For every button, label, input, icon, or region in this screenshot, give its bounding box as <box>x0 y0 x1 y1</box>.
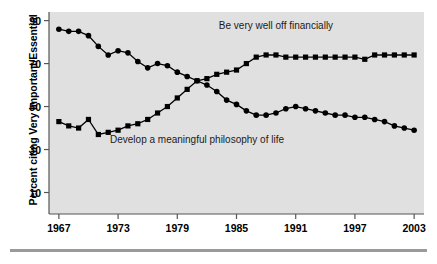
series-marker-circle <box>125 50 131 56</box>
series-marker-circle <box>155 61 161 67</box>
series-marker-square <box>352 55 357 60</box>
series-marker-circle <box>135 59 141 65</box>
series-marker-square <box>175 95 180 100</box>
series-marker-square <box>273 52 278 57</box>
series-marker-square <box>135 121 140 126</box>
y-tick-label: 90 <box>29 15 41 27</box>
series-marker-circle <box>66 29 72 35</box>
y-axis-ticks: 9070503010 <box>29 15 49 199</box>
series-marker-circle <box>313 108 319 114</box>
series-marker-square <box>234 67 239 72</box>
series-marker-square <box>115 128 120 133</box>
series-marker-square <box>293 55 298 60</box>
series-marker-square <box>56 119 61 124</box>
x-axis-ticks: 1967197319791985199119972003 <box>47 214 426 234</box>
series-marker-circle <box>392 123 398 129</box>
series-marker-square <box>185 87 190 92</box>
series-marker-square <box>66 123 71 128</box>
y-tick-label: 30 <box>29 144 41 156</box>
chart-plot-svg: 9070503010 1967197319791985199119972003 … <box>0 0 437 264</box>
x-tick-label: 1979 <box>166 222 190 234</box>
x-tick-label: 1997 <box>343 222 367 234</box>
series-marker-square <box>402 52 407 57</box>
series-marker-circle <box>56 26 62 32</box>
series-marker-circle <box>352 114 358 120</box>
series-marker-square <box>244 61 249 66</box>
series-marker-square <box>86 117 91 122</box>
series-marker-square <box>333 55 338 60</box>
series-marker-square <box>204 76 209 81</box>
series-marker-circle <box>234 102 240 108</box>
series-marker-square <box>145 117 150 122</box>
plot-area-background <box>49 12 424 214</box>
series-marker-circle <box>115 48 121 54</box>
series-marker-square <box>362 57 367 62</box>
series-marker-circle <box>263 112 269 118</box>
series-marker-circle <box>105 52 111 58</box>
x-tick-label: 1973 <box>106 222 130 234</box>
series-marker-circle <box>244 108 250 114</box>
series-marker-circle <box>283 106 289 112</box>
series-marker-square <box>283 55 288 60</box>
label-financially: Be very well off financially <box>219 20 333 31</box>
series-marker-circle <box>214 89 220 95</box>
x-tick-label: 1967 <box>47 222 71 234</box>
series-marker-square <box>313 55 318 60</box>
series-marker-circle <box>86 33 92 39</box>
series-marker-circle <box>303 106 309 112</box>
series-marker-circle <box>362 114 368 120</box>
series-marker-circle <box>253 112 259 118</box>
series-marker-square <box>382 52 387 57</box>
series-marker-circle <box>194 78 200 84</box>
label-philosophy: Develop a meaningful philosophy of life <box>110 134 284 145</box>
series-marker-square <box>165 104 170 109</box>
plot-background <box>49 12 424 214</box>
x-tick-label: 1991 <box>284 222 308 234</box>
series-marker-circle <box>76 29 82 35</box>
series-marker-circle <box>411 127 417 133</box>
series-marker-circle <box>332 112 338 118</box>
y-tick-label: 70 <box>29 58 41 70</box>
series-marker-circle <box>293 104 299 110</box>
series-marker-square <box>303 55 308 60</box>
series-marker-square <box>125 123 130 128</box>
series-marker-circle <box>382 119 388 125</box>
series-marker-circle <box>323 110 329 116</box>
series-marker-circle <box>224 97 230 103</box>
x-tick-label: 2003 <box>402 222 426 234</box>
series-marker-circle <box>145 65 151 71</box>
series-marker-square <box>412 52 417 57</box>
series-marker-square <box>76 125 81 130</box>
series-marker-square <box>155 110 160 115</box>
series-marker-circle <box>273 110 279 116</box>
series-marker-circle <box>372 117 378 123</box>
series-marker-square <box>342 55 347 60</box>
series-marker-square <box>392 52 397 57</box>
y-tick-label: 50 <box>29 101 41 113</box>
series-marker-circle <box>184 74 190 80</box>
series-marker-square <box>372 52 377 57</box>
series-marker-circle <box>174 69 180 75</box>
x-tick-label: 1985 <box>225 222 249 234</box>
series-marker-circle <box>96 44 102 50</box>
series-marker-circle <box>204 82 210 88</box>
series-marker-square <box>254 55 259 60</box>
series-marker-square <box>264 52 269 57</box>
series-marker-square <box>214 72 219 77</box>
chart-figure: Percent citing Very Important/Essential … <box>0 0 437 264</box>
series-marker-square <box>224 70 229 75</box>
series-marker-circle <box>401 125 407 131</box>
series-marker-square <box>96 132 101 137</box>
series-marker-circle <box>342 112 348 118</box>
series-marker-circle <box>165 63 171 69</box>
series-marker-square <box>323 55 328 60</box>
y-tick-label: 10 <box>29 187 41 199</box>
footer-divider-rule <box>10 249 427 252</box>
